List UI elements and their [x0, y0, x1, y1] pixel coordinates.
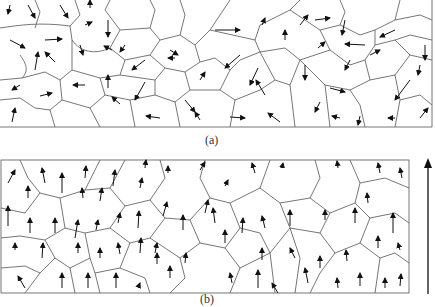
panel-b-label: (b): [200, 292, 214, 307]
panel-b: [0, 158, 435, 296]
panel-a-label: (a): [205, 133, 218, 148]
panel-b-grain-diagram: [0, 158, 435, 296]
panel-a: [0, 0, 435, 130]
field-direction-arrow-icon: [421, 158, 435, 296]
panel-a-grain-diagram: [0, 0, 435, 130]
